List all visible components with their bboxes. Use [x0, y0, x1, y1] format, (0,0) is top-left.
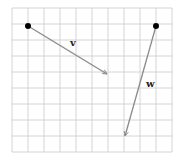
vector-diagram: vw [0, 0, 183, 160]
vector-label-w: w [145, 78, 155, 89]
tail-dot-icon [153, 23, 159, 29]
vector-label-v: v [69, 37, 77, 48]
vector-v [28, 26, 107, 74]
tail-dot-icon [25, 23, 31, 29]
